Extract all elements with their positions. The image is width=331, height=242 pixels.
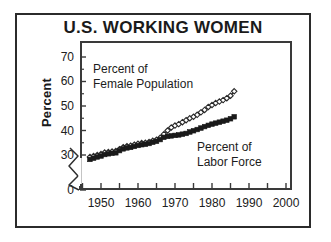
- series-label-labor-force: Percent of Labor Force: [197, 140, 262, 170]
- series-label-female-population-line2: Female Population: [93, 77, 193, 92]
- series-label-female-population-line1: Percent of: [93, 62, 193, 77]
- y-tick-label-30: 30: [40, 148, 74, 162]
- series-label-labor-force-line2: Labor Force: [197, 155, 262, 170]
- series-label-labor-force-line1: Percent of: [197, 140, 262, 155]
- y-tick-label-50: 50: [40, 99, 74, 113]
- y-tick-label-60: 60: [40, 74, 74, 88]
- page-title: U.S. WORKING WOMEN: [15, 18, 311, 38]
- y-tick-label-0: 0: [40, 183, 74, 197]
- chart-figure: U.S. WORKING WOMEN Percent 70 60 50 40 3…: [0, 0, 331, 242]
- series-label-female-population: Percent of Female Population: [93, 62, 193, 92]
- y-tick-label-70: 70: [40, 50, 74, 64]
- y-tick-label-40: 40: [40, 124, 74, 138]
- x-tick-label-2000: 2000: [263, 196, 309, 210]
